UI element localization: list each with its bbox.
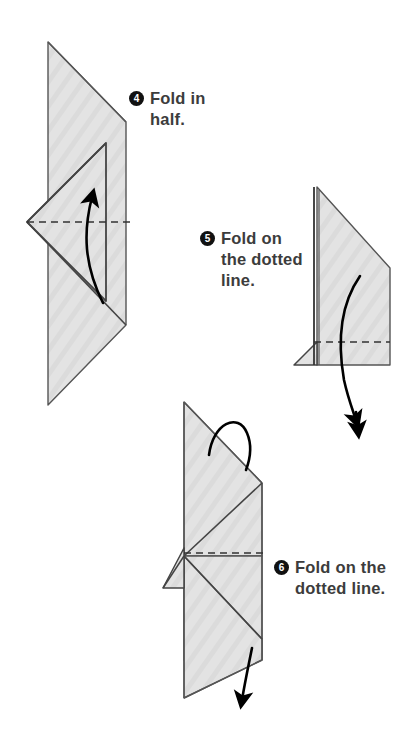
- paper-panel-step-5-body: [317, 187, 390, 365]
- step-instruction-text-6: Fold on the dotted line.: [295, 557, 386, 599]
- step-caption-4: 4 Fold in half.: [129, 88, 205, 130]
- step-instruction-text-4: Fold in half.: [150, 88, 205, 130]
- origami-instruction-sheet: 4 Fold in half. 5 Fold on the dotted lin…: [0, 0, 415, 754]
- origami-figure-step-6: [163, 402, 264, 700]
- fold-arrow-step-5-tail: [356, 412, 358, 430]
- step-caption-6: 6 Fold on the dotted line.: [274, 557, 386, 599]
- step-instruction-text-5: Fold on the dotted line.: [221, 228, 303, 290]
- step-caption-5: 5 Fold on the dotted line.: [200, 228, 303, 290]
- step-number-badge-4: 4: [129, 91, 144, 106]
- origami-figure-step-5: [294, 187, 390, 420]
- origami-diagram-canvas: [0, 0, 415, 754]
- step-number-badge-5: 5: [200, 231, 215, 246]
- step-number-badge-6: 6: [274, 560, 289, 575]
- origami-figure-step-4: [27, 42, 131, 405]
